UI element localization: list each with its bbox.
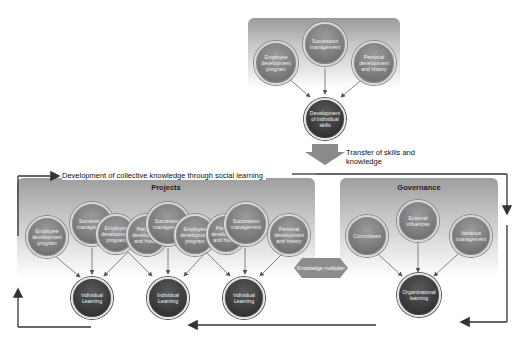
- transfer-arrow-icon: [305, 144, 345, 165]
- transfer-label: Transfer of skills and knowledge: [346, 148, 426, 166]
- projects-node-employee-1: Employee development program: [26, 216, 68, 258]
- top-node-succession: Succession management: [303, 22, 347, 66]
- projects-node-individual-learning-1: Individual Learning: [71, 277, 113, 319]
- top-node-employee-development: Employee development program: [254, 41, 298, 85]
- top-node-personal-development: Personal development and history: [352, 41, 396, 85]
- collective-label: Development of collective knowledge thro…: [62, 171, 266, 180]
- projects-node-individual-learning-3: Individual Learning: [223, 277, 265, 319]
- governance-node-external-influences: External influences: [397, 200, 439, 242]
- governance-node-committees: Committees: [346, 215, 388, 257]
- governance-node-organizational-learning: Organizational learning: [397, 273, 441, 317]
- top-node-individual-skills: Development of individual skills: [304, 98, 346, 140]
- governance-node-variance-management: Variance management: [450, 215, 492, 257]
- projects-node-succession-3: Succession management: [224, 202, 268, 246]
- projects-node-individual-learning-2: Individual Learning: [147, 277, 189, 319]
- projects-node-personal-3: Personal development and history: [268, 214, 310, 256]
- knowledge-multiplier: Knowledge multiplier: [294, 258, 348, 278]
